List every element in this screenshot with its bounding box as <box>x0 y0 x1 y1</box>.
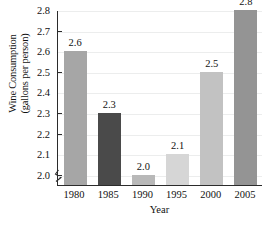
bar-rect <box>64 51 87 185</box>
bar-1985: 2.3 <box>98 10 121 185</box>
x-tick-label-1990: 1990 <box>125 188 159 201</box>
plot-area: 2.62.32.02.12.52.8 <box>57 11 262 186</box>
y-tick-label: 2.1 <box>37 148 50 161</box>
y-tick-label: 2.3 <box>37 107 50 120</box>
bar-rect <box>98 113 121 185</box>
wine-consumption-bar-chart: Wine Consumption (gallons per person) 2.… <box>0 0 273 227</box>
caption-remnant <box>4 219 174 227</box>
x-tick-label-1980: 1980 <box>57 188 91 201</box>
bar-value-label: 2.6 <box>54 37 97 49</box>
bar-rect <box>166 154 189 185</box>
bar-value-label: 2.3 <box>88 99 131 111</box>
bar-value-label: 2.8 <box>224 0 267 8</box>
x-tick-label-1995: 1995 <box>160 188 194 201</box>
bar-1990: 2.0 <box>132 10 155 185</box>
y-tick-label: 2.5 <box>37 66 50 79</box>
y-axis-ticks: 2.02.12.22.32.42.52.62.72.8 <box>0 11 57 186</box>
y-tick-label: 2.2 <box>37 128 50 141</box>
y-tick-label: 2.7 <box>37 25 50 38</box>
bar-2000: 2.5 <box>200 10 223 185</box>
x-tick-label-1985: 1985 <box>91 188 125 201</box>
bar-rect <box>200 72 223 185</box>
bar-2005: 2.8 <box>234 10 257 185</box>
x-axis-tick-labels: 198019851990199520002005 <box>57 188 262 202</box>
x-tick-label-2005: 2005 <box>228 188 262 201</box>
bar-value-label: 2.5 <box>190 58 233 70</box>
bar-1980: 2.6 <box>64 10 87 185</box>
x-axis-title: Year <box>57 203 262 216</box>
y-tick-label: 2.0 <box>37 169 50 182</box>
y-tick-label: 2.4 <box>37 86 50 99</box>
x-tick-label-2000: 2000 <box>194 188 228 201</box>
bar-series: 2.62.32.02.12.52.8 <box>58 11 262 185</box>
bar-rect <box>234 10 257 185</box>
bar-value-label: 2.1 <box>156 140 199 152</box>
bar-1995: 2.1 <box>166 10 189 185</box>
y-tick-label: 2.6 <box>37 45 50 58</box>
bar-value-label: 2.0 <box>122 161 165 173</box>
bar-rect <box>132 175 155 185</box>
y-tick-label: 2.8 <box>37 4 50 17</box>
